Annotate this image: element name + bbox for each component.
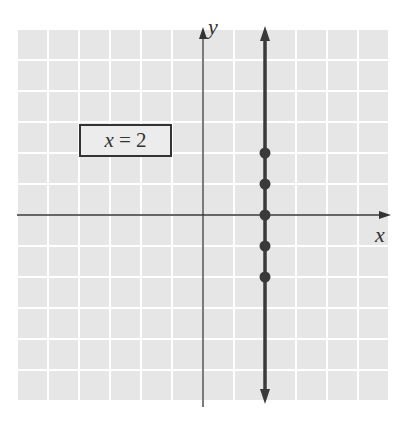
data-point (260, 148, 271, 159)
coordinate-graph (0, 0, 409, 431)
data-point (260, 272, 271, 283)
data-point (260, 241, 271, 252)
equation-label: x = 2 (79, 124, 172, 157)
x-axis-label: x (375, 222, 385, 248)
equation-variable: x (104, 128, 113, 153)
equation-value: = 2 (114, 128, 147, 153)
data-point (260, 179, 271, 190)
data-point (260, 210, 271, 221)
y-axis-label: y (208, 14, 218, 40)
